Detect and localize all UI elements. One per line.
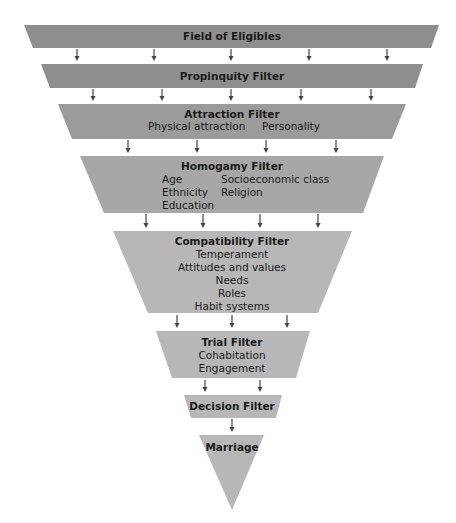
stage-title-compatibility-filter: Compatibility Filter [175,235,290,248]
compatibility-item-needs: Needs [216,274,249,287]
stage-title-decision-filter: Decision Filter [189,400,275,413]
down-arrow-icon [229,49,234,61]
down-arrow-icon [258,380,263,392]
attraction-item-physical: Physical attraction [148,120,245,133]
homogamy-item-ethnicity: Ethnicity [162,186,208,199]
down-arrow-icon [152,49,157,61]
trial-item-cohabitation: Cohabitation [198,349,265,362]
stage-title-attraction-filter: Attraction Filter [184,108,279,121]
down-arrow-icon [307,49,312,61]
down-arrow-icon [160,89,165,101]
down-arrow-icon [334,140,339,153]
trial-item-engagement: Engagement [199,362,266,375]
down-arrow-icon [75,49,80,61]
down-arrow-icon [385,49,390,61]
down-arrow-icon [229,89,234,101]
compatibility-item-temperament: Temperament [196,248,269,261]
homogamy-item-education: Education [162,199,214,212]
down-arrow-icon [201,214,206,228]
down-arrow-icon [91,89,96,101]
stage-title-trial-filter: Trial Filter [202,336,263,349]
down-arrow-icon [258,214,263,228]
compatibility-item-attitudes: Attitudes and values [178,261,286,274]
stage-title-homogamy-filter: Homogamy Filter [181,160,283,173]
down-arrow-icon [175,315,180,328]
down-arrow-icon [369,89,374,101]
down-arrow-icon [299,89,304,101]
down-arrow-icon [195,140,200,153]
down-arrow-icon [144,214,149,228]
down-arrow-icon [285,315,290,328]
homogamy-item-age: Age [162,173,182,186]
compatibility-item-roles: Roles [218,287,246,300]
down-arrow-icon [316,214,321,228]
stage-title-field-of-eligibles: Field of Eligibles [183,30,281,43]
down-arrow-icon [230,315,235,328]
down-arrow-icon [203,380,208,392]
stage-title-propinquity-filter: Propinquity Filter [180,70,284,83]
homogamy-item-religion: Religion [221,186,263,199]
homogamy-item-socioeconomic: Socioeconomic class [221,173,329,186]
attraction-item-personality: Personality [262,120,320,133]
down-arrow-icon [264,140,269,153]
down-arrow-icon [126,140,131,153]
down-arrow-icon [230,419,235,432]
stage-title-marriage: Marriage [205,441,258,454]
compatibility-item-habit-systems: Habit systems [195,300,270,313]
